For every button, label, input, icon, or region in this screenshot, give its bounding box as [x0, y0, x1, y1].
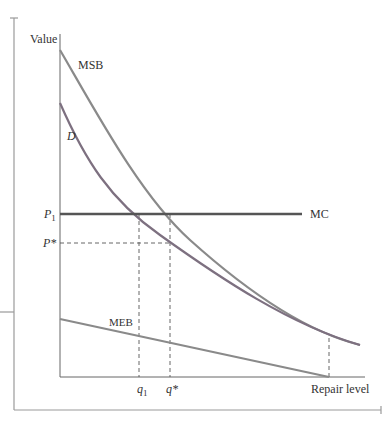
d-label: D: [66, 129, 76, 143]
mc-label: MC: [310, 207, 329, 221]
y-axis-label: Value: [30, 32, 57, 46]
qstar-label: q*: [166, 382, 178, 396]
msb-label: MSB: [78, 58, 103, 72]
meb-line: [60, 319, 329, 377]
q1-label: q1: [137, 382, 148, 398]
msb-curve: [60, 50, 360, 345]
p1-label: P1: [43, 207, 56, 223]
demand-curve: [60, 103, 360, 345]
x-axis-label: Repair level: [311, 382, 370, 396]
axes: [60, 34, 365, 377]
meb-label: MEB: [109, 316, 133, 328]
guide-lines: [60, 214, 329, 377]
pstar-label: P*: [42, 236, 56, 250]
diagram-canvas: Value MSB D MC MEB Repair level P1 P* q1…: [0, 0, 384, 423]
